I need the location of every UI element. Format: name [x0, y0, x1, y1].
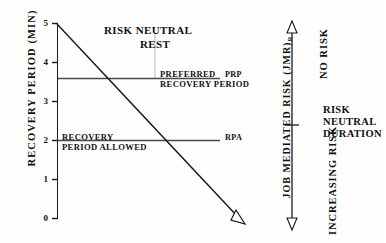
rpa-label-line-1: RECOVERY	[62, 132, 114, 142]
rpa-label-line-2: PERIOD ALLOWED	[62, 142, 147, 152]
y-axis-right-title-subscript: R	[286, 36, 294, 41]
risk-neutral-duration-line-2: NEUTRAL	[323, 116, 376, 127]
page-title-line-2: REST	[140, 38, 170, 50]
page-title-line-1: RISK NEUTRAL	[104, 24, 192, 36]
risk-neutral-duration-line-1: RISK	[323, 104, 350, 115]
no-risk-label: NO RISK	[318, 6, 329, 102]
y-axis-left-title-wrapper: RECOVERY PERIOD (MIN)	[26, 0, 42, 188]
prp-tag: PRP	[225, 70, 242, 79]
y-tick-label-0: 0	[30, 214, 48, 223]
rpa-tag: RPA	[225, 133, 242, 142]
y-axis-left-title: RECOVERY PERIOD (MIN)	[26, 0, 37, 188]
prp-label-line-1: PREFERRED	[160, 69, 216, 79]
increasing-risk-label-wrapper: INCREASING RISK	[272, 175, 386, 189]
y-axis-left-spine	[57, 23, 58, 219]
no-risk-label-wrapper: NO RISK	[275, 48, 371, 62]
risk-neutral-duration-line-3: DURATION	[323, 128, 382, 139]
prp-label-line-2: RECOVERY PERIOD	[160, 79, 249, 89]
y-axis-right-title: JOB MEDIATED RISK (JMR)R	[281, 10, 292, 226]
